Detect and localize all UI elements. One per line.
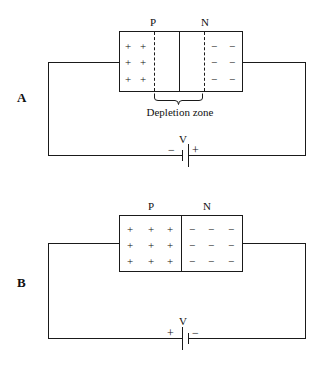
charge-positive: + bbox=[124, 256, 136, 267]
region-label-n-a: N bbox=[201, 17, 209, 28]
battery-b-long-plate bbox=[182, 327, 183, 350]
battery-a-left-terminal: − bbox=[168, 144, 175, 156]
depletion-edge-p-a bbox=[154, 32, 155, 91]
charge-positive: + bbox=[145, 224, 157, 235]
charge-negative: − bbox=[208, 57, 220, 68]
charge-positive: + bbox=[137, 57, 149, 68]
charge-positive: + bbox=[137, 41, 149, 52]
charge-negative: − bbox=[226, 57, 238, 68]
charge-negative: − bbox=[208, 74, 220, 85]
region-label-p-b: P bbox=[148, 201, 154, 212]
wire-b-right bbox=[305, 243, 306, 339]
battery-b-short-plate bbox=[188, 333, 189, 344]
charge-negative: − bbox=[205, 240, 217, 251]
wire-a-left bbox=[48, 62, 49, 156]
charge-negative: − bbox=[186, 224, 198, 235]
junction-line-b bbox=[181, 215, 182, 272]
charge-positive: + bbox=[122, 74, 134, 85]
charge-positive: + bbox=[145, 256, 157, 267]
charge-positive: + bbox=[124, 224, 136, 235]
wire-b-top-right bbox=[242, 243, 306, 244]
wire-a-top-left bbox=[48, 62, 120, 63]
charge-positive: + bbox=[164, 240, 176, 251]
wire-a-bottom-right bbox=[188, 155, 306, 156]
battery-b-left-terminal: + bbox=[167, 327, 174, 339]
charge-negative: − bbox=[205, 224, 217, 235]
charge-negative: − bbox=[208, 41, 220, 52]
panel-a-label: A bbox=[17, 91, 26, 104]
wire-a-top-right bbox=[242, 62, 306, 63]
battery-a-voltage-label: V bbox=[179, 134, 187, 145]
battery-a-short-plate bbox=[182, 150, 183, 161]
wire-b-bottom-right bbox=[188, 338, 306, 339]
panel-b-label: B bbox=[17, 276, 26, 289]
wire-a-right bbox=[305, 62, 306, 156]
charge-negative: − bbox=[226, 41, 238, 52]
charge-negative: − bbox=[226, 74, 238, 85]
charge-negative: − bbox=[225, 224, 237, 235]
wire-b-left bbox=[48, 243, 49, 339]
pn-junction-figure: A P N + + + + + + − − − − − − bbox=[0, 0, 327, 369]
charge-positive: + bbox=[137, 74, 149, 85]
depletion-zone-label: Depletion zone bbox=[147, 107, 214, 118]
wire-a-bottom-left bbox=[48, 155, 182, 156]
junction-line-a bbox=[179, 31, 180, 92]
charge-negative: − bbox=[205, 256, 217, 267]
region-label-p-a: P bbox=[150, 17, 156, 28]
battery-b-right-terminal: − bbox=[192, 327, 199, 339]
charge-negative: − bbox=[225, 256, 237, 267]
charge-negative: − bbox=[186, 240, 198, 251]
region-label-n-b: N bbox=[203, 201, 211, 212]
depletion-zone-brace bbox=[152, 93, 206, 105]
battery-b-voltage-label: V bbox=[179, 316, 187, 327]
charge-positive: + bbox=[164, 256, 176, 267]
depletion-edge-n-a bbox=[204, 32, 205, 91]
charge-positive: + bbox=[122, 41, 134, 52]
charge-positive: + bbox=[122, 57, 134, 68]
charge-positive: + bbox=[124, 240, 136, 251]
charge-positive: + bbox=[164, 224, 176, 235]
battery-a-long-plate bbox=[188, 144, 189, 167]
charge-positive: + bbox=[145, 240, 157, 251]
charge-negative: − bbox=[186, 256, 198, 267]
wire-b-bottom-left bbox=[48, 338, 182, 339]
wire-b-top-left bbox=[48, 243, 120, 244]
battery-a-right-terminal: + bbox=[192, 144, 199, 156]
charge-negative: − bbox=[225, 240, 237, 251]
